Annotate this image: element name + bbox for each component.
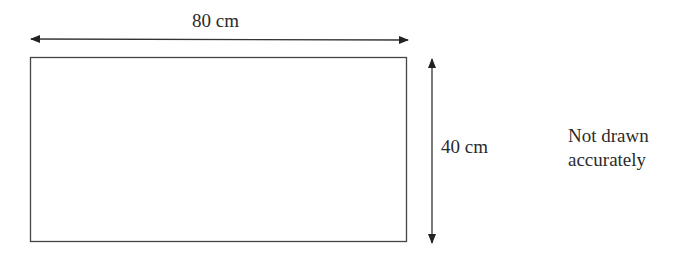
width-dimension-arrow — [31, 39, 408, 40]
rectangle-shape — [31, 58, 407, 242]
height-label: 40 cm — [441, 137, 488, 156]
not-drawn-accurately-note: Not drawn accurately — [568, 124, 649, 172]
note-line-2: accurately — [568, 148, 649, 172]
width-label: 80 cm — [192, 11, 239, 30]
note-line-1: Not drawn — [568, 124, 649, 148]
diagram-canvas: 80 cm 40 cm Not drawn accurately — [0, 0, 693, 257]
